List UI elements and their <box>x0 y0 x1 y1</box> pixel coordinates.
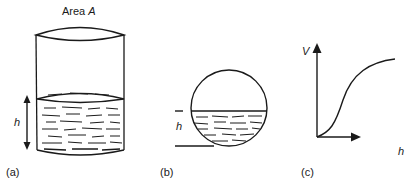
diagram-canvas <box>0 0 417 183</box>
caption-c: (c) <box>301 167 314 178</box>
caption-a: (a) <box>6 167 19 178</box>
volume-height-graph <box>313 43 396 142</box>
area-label-text: Area <box>62 5 88 17</box>
y-axis-arrow-icon <box>313 43 322 53</box>
spherical-tank <box>175 70 267 146</box>
x-axis-label-h: h <box>398 146 404 157</box>
area-label: Area A <box>62 6 96 17</box>
height-arrow-a <box>24 95 31 150</box>
area-label-variable: A <box>88 5 95 17</box>
height-label-b: h <box>176 121 182 132</box>
caption-b: (b) <box>160 167 173 178</box>
y-axis-label-v: V <box>302 46 309 57</box>
x-axis-arrow-icon <box>351 133 361 142</box>
height-label-a: h <box>14 117 20 128</box>
volume-curve <box>317 59 395 137</box>
